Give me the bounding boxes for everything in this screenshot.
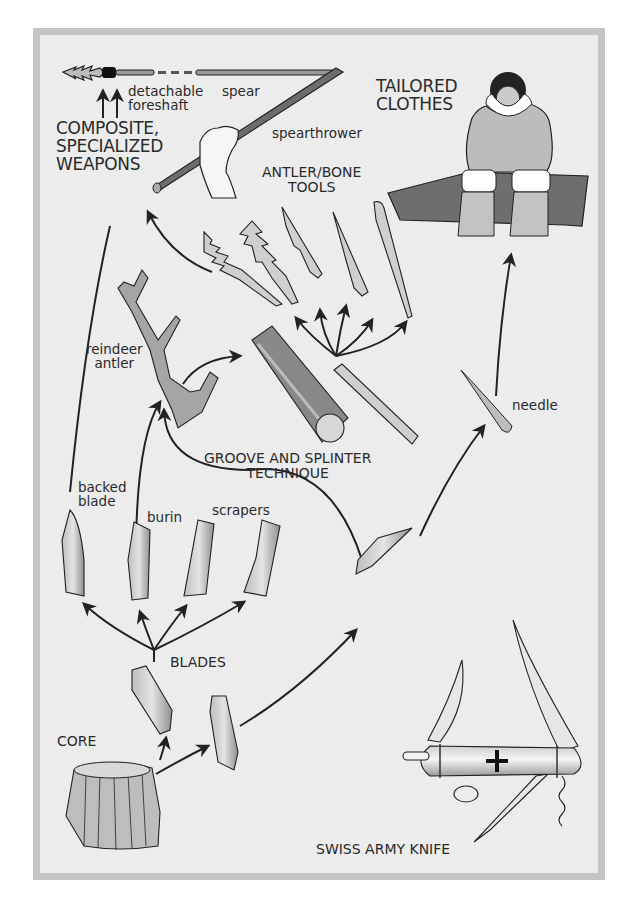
- label-groove-splinter: GROOVE AND SPLINTER TECHNIQUE: [204, 451, 371, 480]
- needle-icon: [461, 370, 512, 432]
- swiss-army-knife-icon: [403, 620, 581, 842]
- label-spearthrower: spearthrower: [272, 126, 362, 140]
- label-detachable-foreshaft: detachable foreshaft: [128, 84, 203, 112]
- label-reindeer-antler: reindeer antler: [86, 342, 143, 370]
- groove-splinter-core-icon: [252, 326, 418, 444]
- blade-icon-2: [210, 696, 238, 770]
- blade-flake-icon: [356, 528, 412, 574]
- label-scrapers: scrapers: [212, 503, 270, 517]
- label-backed-blade: backed blade: [78, 480, 126, 508]
- antler-bone-tools-icon: [204, 202, 412, 318]
- label-blades: BLADES: [170, 655, 226, 670]
- blade-icon: [132, 666, 172, 734]
- burin-icon: [128, 522, 150, 600]
- label-core: CORE: [57, 734, 96, 749]
- label-needle: needle: [512, 398, 558, 412]
- spear-icon: [63, 66, 336, 80]
- scraper-icon: [184, 520, 214, 596]
- label-burin: burin: [147, 510, 182, 524]
- backed-blade-icon: [62, 510, 84, 596]
- label-swiss-army-knife: SWISS ARMY KNIFE: [316, 842, 450, 857]
- scraper-icon-2: [244, 520, 280, 596]
- label-spear: spear: [222, 84, 260, 98]
- label-composite-weapons: COMPOSITE, SPECIALIZED WEAPONS: [56, 120, 163, 174]
- label-tailored-clothes: TAILORED CLOTHES: [376, 78, 457, 114]
- core-icon: [66, 762, 160, 850]
- label-antler-bone-tools: ANTLER/BONE TOOLS: [262, 165, 361, 194]
